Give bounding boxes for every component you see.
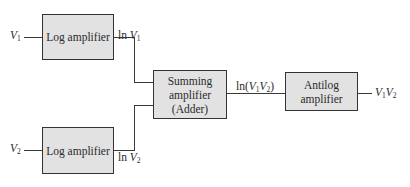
input-v1-label: V1	[10, 29, 21, 43]
summing-label-line-1: Summing	[168, 74, 213, 88]
ln-v1v2-label: ln(V1V2)	[236, 80, 274, 94]
log-amplifier-1-block: Log amplifier	[42, 14, 114, 60]
antilog-label-line-2: amplifier	[300, 92, 342, 106]
ln-v2-label: ln V2	[118, 151, 141, 165]
out-v2: V	[386, 86, 393, 98]
v2-var: V	[10, 142, 17, 154]
summing-label-line-2: amplifier	[169, 88, 211, 102]
antilog-amplifier-block: Antilog amplifier	[285, 72, 358, 111]
ln-open: ln(	[236, 80, 249, 92]
v1-sub: 1	[17, 34, 21, 43]
ln-v2-sub: 2	[137, 156, 141, 165]
out-v1: V	[375, 86, 382, 98]
log-amplifier-2-block: Log amplifier	[42, 127, 114, 174]
ln-v1-label: ln V1	[118, 29, 141, 43]
wire-antilog-output	[358, 93, 372, 94]
ln-fn: ln	[118, 151, 130, 163]
ln-fn: ln	[118, 29, 130, 41]
log-amplifier-1-label: Log amplifier	[46, 30, 110, 44]
ln-prod-v1: V	[249, 80, 256, 92]
wire-v2-input	[24, 150, 42, 151]
output-v1v2-label: V1V2	[375, 86, 397, 100]
ln-prod-v2: V	[260, 80, 267, 92]
out-s2: 2	[393, 91, 397, 100]
ln-close: )	[270, 80, 274, 92]
input-v2-label: V2	[10, 142, 21, 156]
antilog-label-line-1: Antilog	[304, 78, 339, 92]
wire-log1-to-sum	[134, 82, 154, 83]
v1-var: V	[10, 29, 17, 41]
ln-v2-var: V	[130, 151, 137, 163]
log-amplifier-2-label: Log amplifier	[46, 144, 110, 158]
ln-v1-sub: 1	[137, 34, 141, 43]
summing-label-line-3: (Adder)	[172, 102, 208, 116]
wire-v1-input	[24, 37, 42, 38]
v2-sub: 2	[17, 147, 21, 156]
ln-v1-var: V	[130, 29, 137, 41]
wire-log1-out-v	[134, 37, 135, 83]
wire-log2-out-v	[134, 105, 135, 151]
wire-log2-to-sum	[134, 105, 154, 106]
summing-amplifier-block: Summing amplifier (Adder)	[153, 70, 227, 119]
